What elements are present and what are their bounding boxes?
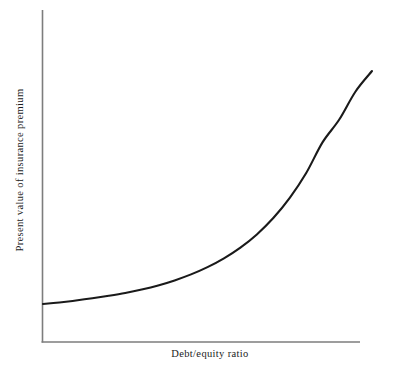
x-axis-label: Debt/equity ratio bbox=[0, 349, 420, 360]
chart-figure: Present value of insurance premium Debt/… bbox=[0, 0, 420, 374]
plot-area bbox=[0, 0, 420, 374]
y-axis-label: Present value of insurance premium bbox=[15, 89, 26, 252]
y-axis-label-container: Present value of insurance premium bbox=[0, 0, 40, 340]
chart-background bbox=[0, 0, 420, 374]
